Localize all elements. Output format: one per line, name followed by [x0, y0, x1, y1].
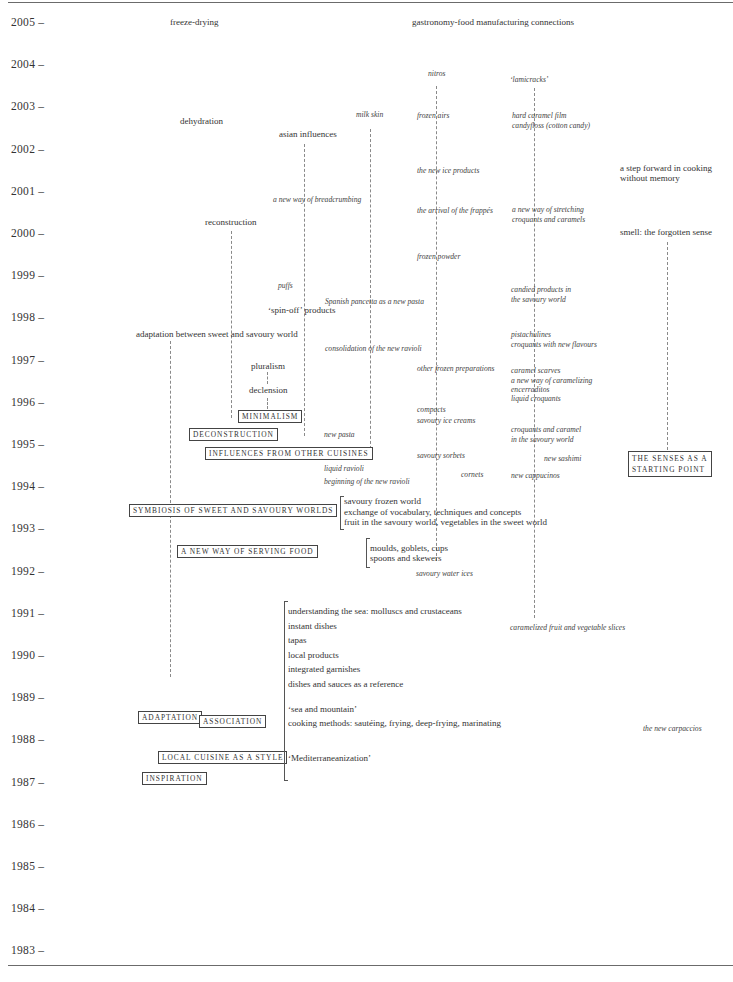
label-declension: declension: [249, 385, 288, 396]
list-moulds: moulds, goblets, cups spoons and skewers: [370, 543, 448, 563]
label-pistachulines: pistachulines: [511, 330, 551, 340]
label-croquants-flavours: croquants with new flavours: [511, 340, 597, 350]
year-tick: 1990 –: [11, 649, 44, 661]
label-adaptation-world: adaptation between sweet and savoury wor…: [136, 329, 298, 340]
year-tick: 1989 –: [11, 691, 44, 703]
label-smell: smell: the forgotten sense: [620, 227, 712, 238]
year-tick: 1999 –: [11, 269, 44, 281]
label-pancetta: Spanish pancetta as a new pasta: [325, 297, 424, 307]
list-frozen-world: savoury frozen world exchange of vocabul…: [344, 496, 547, 528]
year-tick: 1993 –: [11, 522, 44, 534]
label-dehydration: dehydration: [180, 116, 223, 127]
label-new-sashimi: new sashimi: [544, 454, 581, 464]
label-nitros: nitros: [428, 69, 445, 79]
year-tick: 1986 –: [11, 818, 44, 830]
list-item: moulds, goblets, cups: [370, 543, 448, 553]
label-savoury-water-ices: savoury water ices: [416, 569, 473, 579]
year-tick: 2003 –: [11, 100, 44, 112]
label-frozen-powder: frozen powder: [417, 252, 460, 262]
label-savoury-sorbets: savoury sorbets: [417, 451, 465, 461]
label-new-pasta: new pasta: [324, 430, 355, 440]
year-tick: 2005 –: [11, 16, 44, 28]
year-tick: 2002 –: [11, 143, 44, 155]
connector-smell: [667, 242, 668, 450]
box-influences: INFLUENCES FROM OTHER CUISINES: [205, 447, 373, 460]
header-freeze-drying: freeze-drying: [170, 17, 218, 28]
label-ice-products: the new ice products: [417, 166, 479, 176]
list-item: savoury frozen world: [344, 496, 547, 507]
year-tick: 1992 –: [11, 565, 44, 577]
connector-nitros: [436, 86, 437, 561]
box-minimalism: MINIMALISM: [238, 410, 302, 423]
label-stretching-1: a new way of stretching: [512, 205, 584, 215]
year-tick: 1988 –: [11, 733, 44, 745]
connector-asian-influences: [304, 144, 305, 436]
label-candied-2: the savoury world: [511, 295, 566, 305]
year-tick: 1985 –: [11, 860, 44, 872]
label-liquid-croquants: liquid croquants: [511, 394, 561, 404]
label-reconstruction: reconstruction: [205, 217, 256, 228]
list-spacer: [288, 731, 501, 751]
connector-declension: [267, 398, 268, 409]
connector-reconstruction: [231, 231, 232, 418]
list-item: dishes and sauces as a reference: [288, 677, 501, 692]
label-new-cappucinos: new cappucinos: [511, 471, 560, 481]
year-tick: 1987 –: [11, 776, 44, 788]
year-tick: 1995 –: [11, 438, 44, 450]
label-new-carpaccios: the new carpaccios: [643, 724, 702, 734]
label-caramelized-slices: caramelized fruit and vegetable slices: [510, 623, 625, 633]
list-item: ‘sea and mountain’: [288, 702, 501, 717]
list-item: spoons and skewers: [370, 553, 448, 563]
label-consolidation: consolidation of the new ravioli: [325, 344, 422, 354]
label-savoury-ice-creams: savoury ice creams: [417, 416, 475, 426]
connector-milk-skin: [370, 129, 371, 454]
year-tick: 2004 –: [11, 58, 44, 70]
box-symbiosis: SYMBIOSIS OF SWEET AND SAVOURY WORLDS: [129, 504, 337, 517]
box-new-way-serving: A NEW WAY OF SERVING FOOD: [177, 545, 318, 558]
label-lamicracks: ‘lamicracks’: [510, 75, 548, 85]
label-croquants-caramel-1: croquants and caramel: [511, 425, 581, 435]
label-liquid-ravioli: liquid ravioli: [324, 464, 364, 474]
box-inspiration: INSPIRATION: [142, 772, 207, 785]
box-senses-line-1: THE SENSES AS A: [632, 453, 708, 464]
label-step-forward-2: without memory: [620, 173, 680, 184]
year-tick: 1991 –: [11, 607, 44, 619]
label-breadcrumbing: a new way of breadcrumbing: [273, 195, 361, 205]
year-tick: 1984 –: [11, 902, 44, 914]
label-croquants-caramel-2: in the savoury world: [511, 435, 574, 445]
label-hard-caramel: hard caramel film: [512, 111, 567, 121]
list-spacer: [288, 692, 501, 702]
box-senses: THE SENSES AS A STARTING POINT: [628, 451, 712, 477]
label-frozen-airs: frozen airs: [417, 111, 449, 121]
year-tick: 1997 –: [11, 354, 44, 366]
box-adaptation: ADAPTATION: [138, 711, 202, 724]
label-beginning-ravioli: beginning of the new ravioli: [324, 477, 410, 487]
list-item: cooking methods: sautéing, frying, deep-…: [288, 716, 501, 731]
label-other-frozen: other frozen preparations: [417, 364, 494, 374]
connector-pluralism: [267, 372, 268, 384]
label-compacts: compacts: [417, 405, 446, 415]
bottom-rule: [8, 965, 733, 966]
header-connections: gastronomy-food manufacturing connection…: [412, 17, 574, 28]
box-association: ASSOCIATION: [199, 715, 266, 728]
year-tick: 1983 –: [11, 944, 44, 956]
label-candied-1: candied products in: [511, 285, 571, 295]
list-item: fruit in the savoury world, vegetables i…: [344, 517, 547, 528]
year-tick: 1998 –: [11, 311, 44, 323]
list-item: integrated garnishes: [288, 662, 501, 677]
list-item: understanding the sea: molluscs and crus…: [288, 604, 501, 619]
label-pluralism: pluralism: [251, 361, 285, 372]
year-tick: 2001 –: [11, 185, 44, 197]
list-item: ‘Mediterraneanization’: [288, 751, 501, 766]
label-asian-influences: asian influences: [279, 129, 337, 140]
list-item: exchange of vocabulary, techniques and c…: [344, 507, 547, 518]
label-cornets: cornets: [461, 470, 483, 480]
box-local-cuisine: LOCAL CUISINE AS A STYLE: [158, 751, 287, 764]
list-sea: understanding the sea: molluscs and crus…: [288, 604, 501, 765]
top-rule: [8, 2, 733, 3]
box-deconstruction: DECONSTRUCTION: [189, 428, 278, 441]
list-item: instant dishes: [288, 619, 501, 634]
connector-lamicracks: [534, 88, 535, 618]
year-tick: 1996 –: [11, 396, 44, 408]
list-item: tapas: [288, 633, 501, 648]
